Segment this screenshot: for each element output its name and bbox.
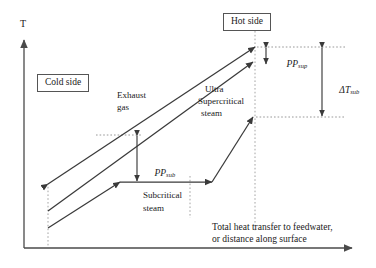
subcritical-steam-label-line2: steam — [143, 203, 164, 214]
pp-sub-symbol: PP — [155, 168, 167, 178]
pp-sup-annotation: PPsup — [277, 48, 307, 82]
subcritical-superheater-segment — [212, 117, 253, 182]
exhaust-gas-label-line2: gas — [117, 102, 129, 113]
hot-side-box: Hot side — [223, 13, 271, 31]
y-axis-label: T — [20, 18, 26, 30]
pp-sub-subscript: sub — [166, 172, 175, 179]
pp-sup-symbol: PP — [287, 59, 299, 69]
subcritical-steam-label-line1: Subcritical — [143, 190, 182, 201]
delta-t-sub-annotation: ΔTsub — [330, 74, 359, 108]
ultra-supercritical-label-line1: Ultra — [205, 84, 224, 95]
ultra-supercritical-label-line2: Supercritical — [198, 96, 244, 107]
x-axis-caption-line1: Total heat transfer to feedwater, — [212, 222, 333, 233]
delta-t-symbol: ΔT — [339, 85, 350, 95]
x-axis-caption-line2: or distance along surface — [212, 234, 307, 245]
temperature-heat-transfer-diagram: T Cold side Hot side Exhaust gas Ultra S… — [0, 0, 376, 268]
exhaust-gas-label-line1: Exhaust — [117, 90, 146, 101]
pp-sub-annotation: PPsub — [145, 157, 175, 191]
dashed-guides — [48, 31, 255, 247]
ultra-supercritical-label-line3: steam — [201, 108, 222, 119]
cold-side-box: Cold side — [37, 74, 89, 92]
delta-t-subscript: sub — [350, 89, 359, 96]
pp-sup-subscript: sup — [298, 63, 307, 70]
subcritical-economiser-segment — [48, 182, 120, 228]
